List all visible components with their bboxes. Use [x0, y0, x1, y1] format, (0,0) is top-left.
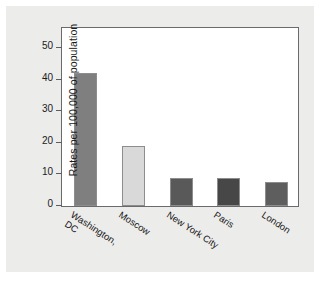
x-axis-label: London: [260, 209, 293, 235]
y-axis-tick: 10: [40, 173, 62, 174]
y-axis-tick-label: 40: [42, 72, 53, 83]
y-axis-tick-label: 10: [42, 166, 53, 177]
y-axis-tick-label: 30: [42, 103, 53, 114]
figure-canvas: 01020304050 Rates per 100,000 of populat…: [6, 6, 314, 272]
x-axis-label-line: New York City: [165, 209, 221, 250]
bar: [122, 146, 145, 206]
y-axis-tick: 40: [40, 79, 62, 80]
y-axis-tick: 0: [40, 205, 62, 206]
y-axis-tick: 20: [40, 142, 62, 143]
x-axis-label-line: Moscow: [117, 209, 152, 237]
plot-area: 01020304050 Rates per 100,000 of populat…: [61, 27, 299, 207]
x-axis-label: Moscow: [117, 209, 152, 237]
x-axis-label: Washington,DC: [63, 209, 119, 256]
y-axis-tick-label: 0: [47, 198, 53, 209]
bars-layer: [62, 28, 298, 206]
y-axis-tick: 50: [40, 47, 62, 48]
x-axis-labels: Washington,DCMoscowNew York CityParisLon…: [61, 209, 299, 279]
bar: [170, 178, 193, 206]
x-axis-label: Paris: [212, 209, 236, 230]
figure-root: 01020304050 Rates per 100,000 of populat…: [0, 0, 320, 281]
y-axis-tick-label: 20: [42, 135, 53, 146]
x-axis-label-line: Paris: [212, 209, 236, 230]
y-axis-tick-label: 50: [42, 40, 53, 51]
x-axis-label-line: London: [260, 209, 293, 235]
bar: [217, 178, 240, 206]
bar: [265, 182, 288, 206]
y-axis-tick: 30: [40, 110, 62, 111]
x-axis-label: New York City: [165, 209, 221, 250]
